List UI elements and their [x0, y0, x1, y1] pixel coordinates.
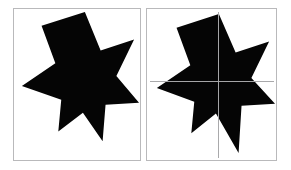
seven-pointed-star-left [22, 12, 139, 141]
seven-pointed-star-right [157, 14, 275, 153]
right-star-canvas [147, 9, 276, 160]
figure-root [0, 0, 291, 170]
panel-right-star-with-axes [146, 8, 277, 161]
panel-left-star-only [13, 8, 141, 161]
left-star-canvas [14, 9, 140, 160]
